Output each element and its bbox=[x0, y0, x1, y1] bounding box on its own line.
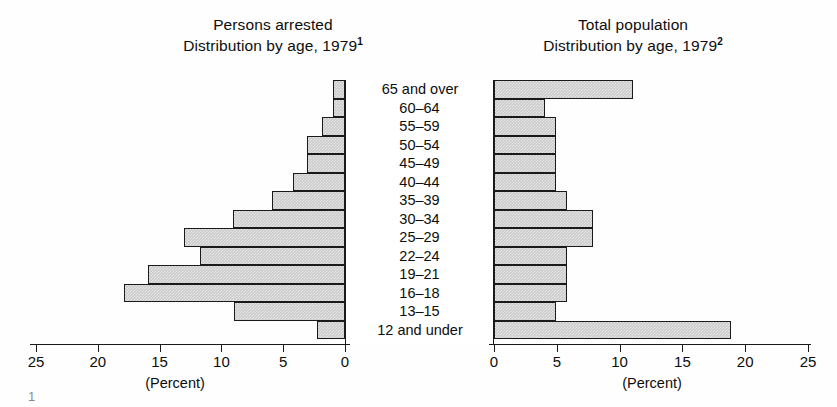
left-tick-15 bbox=[160, 344, 161, 352]
bar-left-5 bbox=[307, 154, 345, 173]
bar-left-8 bbox=[233, 210, 345, 229]
left-tick-label-5: 5 bbox=[279, 353, 287, 370]
left-axis-caption: (Percent) bbox=[145, 375, 205, 391]
left-title-line2: Distribution by age, 19791 bbox=[108, 35, 438, 56]
bar-right-4 bbox=[494, 136, 556, 155]
left-tick-label-20: 20 bbox=[89, 353, 106, 370]
bar-left-2 bbox=[333, 99, 345, 118]
left-tick-0 bbox=[345, 344, 346, 352]
age-label-14: 12 and under bbox=[320, 321, 520, 340]
right-axis-line bbox=[489, 344, 811, 345]
age-label-8: 30–34 bbox=[346, 210, 493, 229]
age-label-10: 22–24 bbox=[346, 247, 493, 266]
left-tick-label-15: 15 bbox=[151, 353, 168, 370]
right-panel-title: Total population Distribution by age, 19… bbox=[468, 14, 798, 56]
bar-right-6 bbox=[494, 173, 556, 192]
right-tick-label-5: 5 bbox=[553, 353, 561, 370]
bar-right-12 bbox=[494, 284, 567, 303]
bar-left-13 bbox=[234, 302, 345, 321]
right-title-line2: Distribution by age, 19792 bbox=[468, 35, 798, 56]
right-tick-5 bbox=[557, 344, 558, 352]
age-label-2: 60–64 bbox=[346, 99, 493, 118]
age-label-7: 35–39 bbox=[346, 191, 493, 210]
bar-right-2 bbox=[494, 99, 545, 118]
age-label-9: 25–29 bbox=[346, 228, 493, 247]
age-label-column: 65 and over60–6455–5950–5445–4940–4435–3… bbox=[345, 80, 494, 344]
age-label-6: 40–44 bbox=[346, 173, 493, 192]
footnote-marker: 1 bbox=[28, 392, 37, 401]
age-label-12: 16–18 bbox=[346, 284, 493, 303]
bar-right-10 bbox=[494, 247, 567, 266]
age-label-5: 45–49 bbox=[346, 154, 493, 173]
bar-right-7 bbox=[494, 191, 567, 210]
right-tick-20 bbox=[745, 344, 746, 352]
bar-left-3 bbox=[322, 117, 345, 136]
left-axis-line bbox=[30, 344, 350, 345]
right-tick-label-15: 15 bbox=[674, 353, 691, 370]
bar-right-11 bbox=[494, 265, 567, 284]
right-tick-label-25: 25 bbox=[800, 353, 817, 370]
right-title-footnote: 2 bbox=[717, 36, 723, 47]
right-axis-caption: (Percent) bbox=[622, 375, 682, 391]
bar-left-6 bbox=[293, 173, 345, 192]
bar-right-14 bbox=[494, 321, 731, 340]
left-tick-5 bbox=[283, 344, 284, 352]
left-tick-label-10: 10 bbox=[213, 353, 230, 370]
age-label-13: 13–15 bbox=[346, 302, 493, 321]
bar-right-8 bbox=[494, 210, 593, 229]
bar-left-9 bbox=[184, 228, 345, 247]
age-label-11: 19–21 bbox=[346, 265, 493, 284]
bar-left-4 bbox=[307, 136, 345, 155]
left-tick-20 bbox=[98, 344, 99, 352]
left-title-line1: Persons arrested bbox=[108, 14, 438, 35]
right-tick-0 bbox=[494, 344, 495, 352]
right-title-line1: Total population bbox=[468, 14, 798, 35]
left-tick-10 bbox=[221, 344, 222, 352]
left-panel-title: Persons arrested Distribution by age, 19… bbox=[108, 14, 438, 56]
age-label-4: 50–54 bbox=[346, 136, 493, 155]
right-tick-label-20: 20 bbox=[737, 353, 754, 370]
age-label-3: 55–59 bbox=[346, 117, 493, 136]
chart-page: Persons arrested Distribution by age, 19… bbox=[0, 0, 837, 407]
bar-right-5 bbox=[494, 154, 556, 173]
left-tick-label-25: 25 bbox=[28, 353, 45, 370]
right-tick-15 bbox=[682, 344, 683, 352]
bar-left-12 bbox=[124, 284, 345, 303]
bar-left-10 bbox=[200, 247, 345, 266]
age-label-1: 65 and over bbox=[320, 80, 520, 99]
right-tick-10 bbox=[620, 344, 621, 352]
right-tick-label-0: 0 bbox=[490, 353, 498, 370]
bar-left-11 bbox=[148, 265, 345, 284]
bar-left-7 bbox=[272, 191, 345, 210]
left-tick-label-0: 0 bbox=[341, 353, 349, 370]
right-tick-label-10: 10 bbox=[611, 353, 628, 370]
plot-area: 65 and over60–6455–5950–5445–4940–4435–3… bbox=[0, 80, 837, 344]
left-tick-25 bbox=[36, 344, 37, 352]
bar-right-3 bbox=[494, 117, 556, 136]
bar-right-13 bbox=[494, 302, 556, 321]
left-title-footnote: 1 bbox=[357, 36, 363, 47]
right-tick-25 bbox=[808, 344, 809, 352]
bar-right-9 bbox=[494, 228, 593, 247]
